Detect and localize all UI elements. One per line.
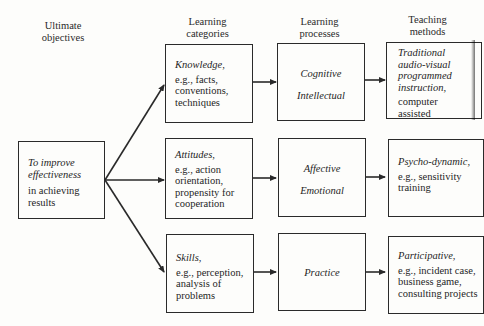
- method-line: training: [398, 182, 470, 194]
- header-line: objectives: [18, 32, 108, 44]
- category-box-attitudes: Attitudes, e.g., action orientation, pro…: [165, 138, 253, 219]
- header-teaching-methods: Teaching methods: [380, 14, 475, 38]
- category-line: e.g., perception,: [176, 267, 243, 279]
- process-box-cognitive: Cognitive Intellectual: [277, 43, 365, 121]
- objective-italic-line: effectiveness: [28, 169, 81, 181]
- method-italic-line: Traditional: [398, 47, 452, 59]
- method-line: consulting projects: [398, 288, 478, 300]
- category-box-skills: Skills, e.g., perception, analysis of pr…: [166, 234, 254, 313]
- category-line: techniques: [175, 97, 228, 109]
- method-italic-line: Psycho-dynamic,: [398, 156, 470, 168]
- method-line: business game,: [398, 276, 478, 288]
- category-line: orientation,: [175, 175, 234, 187]
- objective-line: results: [28, 197, 81, 209]
- header-learning-processes: Learning processes: [272, 16, 367, 40]
- method-line: e.g., sensitivity: [398, 171, 470, 183]
- category-title: Skills,: [176, 252, 243, 264]
- category-line: cooperation: [175, 198, 234, 210]
- category-line: problems: [176, 290, 243, 302]
- category-line: e.g., action: [175, 164, 234, 176]
- process-line: Cognitive: [278, 68, 364, 80]
- header-line: categories: [160, 28, 255, 40]
- process-line: Emotional: [279, 185, 365, 197]
- process-line: Practice: [279, 267, 365, 279]
- category-line: conventions,: [175, 85, 228, 97]
- process-line: Intellectual: [278, 90, 364, 102]
- method-box-traditional: Traditional audio-visual programmed inst…: [386, 42, 482, 119]
- category-line: e.g., facts,: [175, 74, 228, 86]
- header-ultimate-objectives: Ultimate objectives: [18, 20, 108, 44]
- page-edge-shadow: [471, 40, 475, 120]
- method-italic-line: instruction,: [398, 82, 452, 94]
- header-learning-categories: Learning categories: [160, 16, 255, 40]
- method-italic-line: programmed: [398, 70, 452, 82]
- process-line: Affective: [279, 163, 365, 175]
- header-line: processes: [272, 28, 367, 40]
- category-line: propensity for: [175, 187, 234, 199]
- method-line: computer: [398, 96, 452, 108]
- category-box-knowledge: Knowledge, e.g., facts, conventions, tec…: [165, 44, 253, 123]
- category-title: Knowledge,: [175, 59, 228, 71]
- category-line: analysis of: [176, 278, 243, 290]
- method-line: assisted: [398, 108, 452, 120]
- category-title: Attitudes,: [175, 149, 234, 161]
- header-line: Learning: [160, 16, 255, 28]
- method-box-participative: Participative, e.g., incident case, busi…: [388, 236, 484, 314]
- objective-line: in achieving: [28, 185, 81, 197]
- method-line: e.g., incident case,: [398, 265, 478, 277]
- header-line: Teaching: [380, 14, 475, 26]
- header-line: Learning: [272, 16, 367, 28]
- objective-box: To improve effectiveness in achieving re…: [18, 141, 105, 219]
- header-line: Ultimate: [18, 20, 108, 32]
- process-box-practice: Practice: [278, 233, 366, 311]
- process-box-affective: Affective Emotional: [278, 138, 366, 217]
- header-line: methods: [380, 26, 475, 38]
- method-italic-line: audio-visual: [398, 59, 452, 71]
- objective-italic-line: To improve: [28, 157, 81, 169]
- method-italic-line: Participative,: [398, 250, 478, 262]
- method-box-psycho-dynamic: Psycho-dynamic, e.g., sensitivity traini…: [388, 139, 484, 217]
